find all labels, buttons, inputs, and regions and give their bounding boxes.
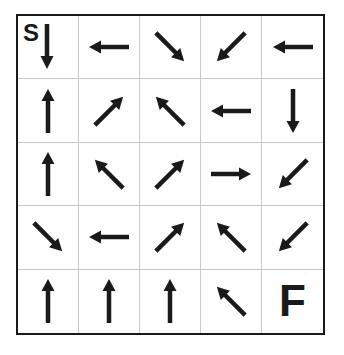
arrow-left-icon [267,21,319,73]
arrow-up-icon [22,275,74,327]
grid-cell-r3-c4[interactable] [201,143,262,206]
arrow-up-right-icon [144,148,196,200]
grid-cell-r3-c3[interactable] [140,143,201,206]
arrow-down-left-icon [267,211,319,263]
grid-cell-r5-c2[interactable] [79,270,140,333]
grid-cell-r4-c3[interactable] [140,206,201,269]
arrow-down-right-icon [22,211,74,263]
arrow-down-icon [267,85,319,137]
grid-cell-r5-c1[interactable] [18,270,79,333]
finish-label: F [279,276,306,326]
arrow-up-icon [144,275,196,327]
grid-cell-r4-c4[interactable] [201,206,262,269]
grid-cell-r1-c3[interactable] [140,16,201,79]
arrow-left-icon [83,21,135,73]
arrow-left-icon [205,85,257,137]
grid-cell-r1-c2[interactable] [79,16,140,79]
arrow-up-right-icon [83,85,135,137]
arrow-up-left-icon [205,211,257,263]
grid-cell-r1-c1[interactable]: S [18,16,79,79]
grid-cell-r3-c5[interactable] [262,143,323,206]
arrow-up-left-icon [144,85,196,137]
arrow-up-icon [22,148,74,200]
grid-cell-r2-c4[interactable] [201,79,262,142]
grid-cell-r5-c3[interactable] [140,270,201,333]
arrow-right-icon [205,148,257,200]
grid-cell-r1-c4[interactable] [201,16,262,79]
arrow-up-icon [22,85,74,137]
grid-cell-r3-c2[interactable] [79,143,140,206]
arrow-up-icon [83,275,135,327]
grid-cell-r1-c5[interactable] [262,16,323,79]
arrow-up-right-icon [144,211,196,263]
grid-cell-r5-c4[interactable] [201,270,262,333]
arrow-down-left-icon [205,21,257,73]
arrow-down-right-icon [144,21,196,73]
grid-cell-r4-c5[interactable] [262,206,323,269]
grid-cell-r5-c5[interactable]: F [262,270,323,333]
arrow-up-left-icon [205,275,257,327]
grid-cell-r2-c2[interactable] [79,79,140,142]
arrow-down-left-icon [267,148,319,200]
grid-cell-r4-c2[interactable] [79,206,140,269]
arrow-up-left-icon [83,148,135,200]
grid-cell-r3-c1[interactable] [18,143,79,206]
grid-cell-r2-c1[interactable] [18,79,79,142]
grid-cell-r2-c3[interactable] [140,79,201,142]
arrow-down-icon [32,20,62,72]
grid-cell-r2-c5[interactable] [262,79,323,142]
arrow-left-icon [83,211,135,263]
maze-grid: SF [16,14,325,335]
grid-cell-r4-c1[interactable] [18,206,79,269]
